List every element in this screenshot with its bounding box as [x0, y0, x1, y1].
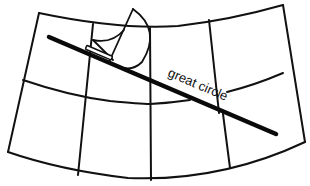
middle-parallel	[23, 73, 283, 104]
map-diagram: great circle	[0, 0, 310, 186]
meridian-2	[150, 28, 151, 180]
right-meridian	[283, 5, 305, 142]
map-outer-boundary	[8, 5, 305, 178]
compass-outer-arc	[124, 9, 150, 68]
great-circle-label: great circle	[166, 65, 230, 104]
top-parallel	[39, 5, 283, 27]
left-meridian	[8, 13, 39, 152]
middle-parallel-right	[227, 73, 283, 92]
bottom-parallel	[8, 142, 305, 178]
meridian-3-lower	[223, 114, 230, 168]
compass-leg	[109, 9, 133, 62]
middle-parallel-left	[23, 80, 190, 104]
